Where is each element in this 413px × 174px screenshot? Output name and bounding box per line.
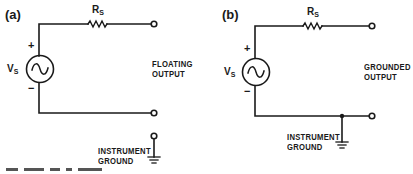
resistor-icon: [88, 21, 107, 27]
resistor-icon: [303, 23, 322, 29]
ground-label-line1: INSTRUMENT: [287, 132, 340, 142]
panel-b-circuit: [243, 23, 375, 148]
output-label-line1: GROUNDED: [364, 62, 411, 72]
circuit-diagram: [0, 0, 413, 174]
wire-top-left-a: [39, 24, 88, 56]
output-label-line1: FLOATING: [152, 59, 193, 69]
output-terminal-bottom-icon: [369, 113, 375, 119]
panel-label-b: (b): [222, 8, 239, 21]
wire-bottom-a: [39, 83, 151, 113]
ground-label-line1: INSTRUMENT: [98, 146, 151, 156]
ground-label-line2: GROUND: [98, 156, 151, 166]
output-label-line2: OUTPUT: [152, 69, 193, 79]
panel-a-circuit: [27, 21, 161, 163]
plus-terminal-b: +: [244, 43, 250, 54]
resistor-label-a: RS: [92, 5, 104, 16]
ground-terminal-icon: [151, 133, 157, 139]
plus-terminal-a: +: [28, 40, 34, 51]
instrument-ground-label-b: INSTRUMENT GROUND: [287, 132, 340, 152]
source-label-b: VS: [224, 67, 235, 78]
floating-output-label: FLOATING OUTPUT: [152, 59, 193, 79]
source-label-main: V: [224, 66, 231, 77]
cropped-caption-fragment: [6, 168, 116, 174]
output-terminal-top-icon: [151, 21, 157, 27]
grounded-output-label: GROUNDED OUTPUT: [364, 62, 411, 82]
source-label-a: VS: [7, 64, 18, 75]
instrument-ground-label-a: INSTRUMENT GROUND: [98, 146, 151, 166]
output-label-line2: OUTPUT: [364, 72, 411, 82]
minus-terminal-a: −: [28, 83, 34, 94]
minus-terminal-b: −: [244, 86, 250, 97]
output-terminal-bottom-icon: [151, 110, 157, 116]
source-label-main: V: [7, 63, 14, 74]
sine-wave-icon: [248, 67, 264, 77]
resistor-label-sub: S: [314, 11, 319, 18]
output-terminal-top-icon: [369, 23, 375, 29]
wire-top-left-b: [255, 26, 303, 58]
panel-label-a: (a): [5, 8, 21, 21]
resistor-label-sub: S: [99, 9, 104, 16]
wire-bottom-b: [255, 86, 369, 116]
source-label-sub: S: [231, 71, 236, 78]
resistor-label-b: RS: [307, 7, 319, 18]
ground-label-line2: GROUND: [287, 142, 340, 152]
sine-wave-icon: [32, 64, 48, 74]
source-label-sub: S: [14, 68, 19, 75]
